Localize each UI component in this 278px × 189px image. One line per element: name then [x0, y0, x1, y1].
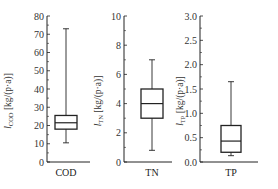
y-tick-label: 60 [34, 47, 44, 58]
category-label: TN [145, 167, 158, 178]
y-tick-label: 6 [116, 69, 121, 80]
y-tick-label: 0 [39, 157, 44, 168]
y-tick-label: 1.5 [185, 84, 198, 95]
y-tick-label: 10 [111, 11, 121, 22]
y-tick-label: 4 [116, 98, 121, 109]
y-axis-label: lCOD [kg/(p·a)] [3, 73, 14, 129]
y-tick-label: 2 [116, 127, 121, 138]
y-tick-label: 20 [34, 120, 44, 131]
y-tick-label: 40 [34, 84, 44, 95]
category-label: COD [55, 167, 76, 178]
y-tick-label: 0 [116, 157, 121, 168]
boxplot-chart: 01020304050607080lCOD [kg/(p·a)]COD02468… [0, 0, 278, 189]
y-tick-label: 2.5 [185, 35, 198, 46]
y-axis-label: lTN [kg/(p·a)] [93, 76, 104, 127]
panel-tp: 0.00.51.01.52.02.53.0lTP [kg/(p·a)]TP [175, 11, 258, 179]
y-tick-label: 30 [34, 102, 44, 113]
y-tick-label: 2.0 [185, 59, 198, 70]
y-tick-label: 0.5 [185, 132, 198, 143]
y-tick-label: 50 [34, 65, 44, 76]
y-tick-label: 80 [34, 11, 44, 22]
panel-cod: 01020304050607080lCOD [kg/(p·a)]COD [3, 11, 90, 179]
category-label: TP [225, 167, 237, 178]
iqr-box [221, 126, 241, 153]
y-axis-label: lTP [kg/(p·a)] [175, 76, 186, 126]
y-tick-label: 1.0 [185, 108, 198, 119]
y-tick-label: 10 [34, 138, 44, 149]
panel-tn: 0246810lTN [kg/(p·a)]TN [93, 11, 172, 179]
y-tick-label: 0.0 [185, 157, 198, 168]
y-tick-label: 70 [34, 29, 44, 40]
y-tick-label: 3.0 [185, 11, 198, 22]
y-tick-label: 8 [116, 40, 121, 51]
